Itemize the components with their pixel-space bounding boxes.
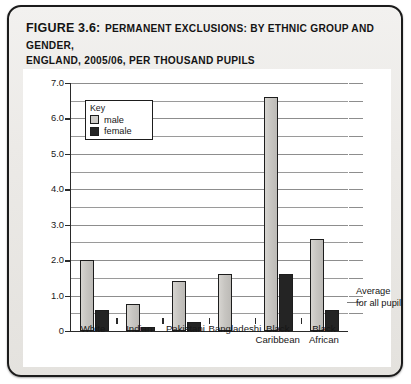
bar-male (80, 260, 94, 331)
figure-caption: FIGURE 3.6: PERMANENT EXCLUSIONS: BY ETH… (26, 19, 386, 68)
right-axis-tick (349, 118, 363, 119)
x-axis-label: Pakistani (162, 323, 208, 334)
gridline-minor (71, 207, 348, 208)
right-axis-tick (349, 242, 363, 243)
x-axis-label-line: Bangladeshi (209, 323, 255, 334)
average-annotation: Average for all pupils (356, 286, 403, 309)
gridline-minor (71, 313, 348, 314)
right-axis-tick (349, 225, 363, 226)
legend-item-female: female (90, 126, 148, 136)
gridline-major (71, 296, 348, 297)
gridline-major (71, 189, 348, 190)
gridline-major (71, 83, 348, 84)
x-axis-label-line: African (301, 334, 347, 345)
y-axis-tick (65, 296, 71, 297)
y-axis-label: 2.0 (38, 254, 64, 265)
right-axis-tick (349, 313, 363, 314)
y-axis-label: 3.0 (38, 219, 64, 230)
legend-label-male: male (104, 115, 124, 125)
x-axis-label: Indian (116, 323, 162, 334)
right-axis-tick (349, 136, 363, 137)
x-axis-label: White (70, 323, 116, 334)
figure-card: FIGURE 3.6: PERMANENT EXCLUSIONS: BY ETH… (7, 5, 403, 377)
y-axis-label: 0 (38, 325, 64, 336)
y-axis-tick (65, 83, 71, 84)
gridline-major (71, 260, 348, 261)
chart: 01.02.03.04.05.06.07.0 Key male female A… (23, 69, 391, 367)
x-axis-label-line: Pakistani (162, 323, 208, 334)
right-axis-tick (349, 189, 363, 190)
gridline-minor (71, 278, 348, 279)
y-axis-tick (65, 154, 71, 155)
y-axis-tick (65, 260, 71, 261)
gridline-major (71, 154, 348, 155)
average-annotation-line-1: Average (356, 286, 403, 298)
gridline-minor (71, 242, 348, 243)
x-axis-label: BlackCaribbean (255, 323, 301, 345)
x-axis-label-line: Indian (116, 323, 162, 334)
right-axis-tick (349, 83, 363, 84)
y-axis-tick (65, 225, 71, 226)
gridline-major (71, 225, 348, 226)
chart-legend: Key male female (85, 100, 153, 140)
legend-swatch-male-icon (90, 115, 99, 124)
x-axis-label: BlackAfrican (301, 323, 347, 345)
x-axis-label: Bangladeshi (209, 323, 255, 334)
right-axis-tick (349, 101, 363, 102)
x-axis-label-line: White (70, 323, 116, 334)
y-axis-labels: 01.02.03.04.05.06.07.0 (31, 83, 64, 331)
y-axis-label: 5.0 (38, 148, 64, 159)
gridline-minor (71, 172, 348, 173)
y-axis-label: 1.0 (38, 290, 64, 301)
figure-number: FIGURE 3.6: (26, 21, 100, 35)
legend-item-male: male (90, 115, 148, 125)
x-axis-label-line: Black (255, 323, 301, 334)
right-axis-tick (349, 296, 363, 297)
figure-caption-line-2: ENGLAND, 2005/06, PER THOUSAND PUPILS (26, 53, 386, 68)
right-axis-tick (349, 172, 363, 173)
y-axis-label: 4.0 (38, 183, 64, 194)
y-axis-label: 6.0 (38, 112, 64, 123)
legend-label-female: female (104, 126, 132, 136)
right-axis-tick (349, 260, 363, 261)
x-axis-label-line: Caribbean (255, 334, 301, 345)
right-axis-tick (349, 154, 363, 155)
legend-title: Key (90, 103, 148, 113)
y-axis-tick (65, 189, 71, 190)
y-axis-label: 7.0 (38, 77, 64, 88)
legend-swatch-female-icon (90, 127, 99, 136)
x-axis-label-line: Black (301, 323, 347, 334)
average-annotation-line-2: for all pupils (356, 298, 403, 310)
right-axis-tick (349, 278, 363, 279)
right-axis-tick (349, 207, 363, 208)
bar-male (264, 97, 278, 331)
bar-male (310, 239, 324, 331)
y-axis-tick (65, 118, 71, 119)
